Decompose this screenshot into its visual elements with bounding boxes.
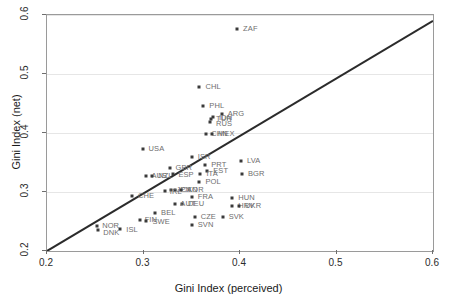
data-point-ita — [199, 172, 202, 175]
data-point-bgr — [240, 173, 243, 176]
point-label-svk: SVK — [229, 213, 244, 221]
data-point-svk — [221, 216, 224, 219]
point-label-nzl: NZL — [158, 172, 172, 180]
data-point-nzl — [151, 175, 154, 178]
data-point-phl — [202, 104, 205, 107]
point-label-ukr: UKR — [245, 202, 261, 210]
point-label-esp: ESP — [178, 171, 193, 179]
data-point-lva — [239, 160, 242, 163]
data-point-zaf — [236, 28, 239, 31]
x-tick-label-0.6: 0.6 — [425, 257, 439, 268]
data-point-cze — [193, 216, 196, 219]
data-point-svn — [190, 224, 193, 227]
point-label-dnk: DNK — [103, 229, 119, 237]
y-axis-label: Gini Index (net) — [10, 72, 22, 192]
gridline-y-0.2 — [47, 251, 433, 252]
point-label-zaf: ZAF — [243, 25, 257, 33]
data-point-prt — [204, 164, 207, 167]
x-tick-label-0.2: 0.2 — [39, 257, 53, 268]
point-label-phl: PHL — [209, 102, 224, 110]
point-label-che: CHE — [138, 192, 154, 200]
data-point-swe — [145, 219, 148, 222]
point-label-bgr: BGR — [248, 170, 265, 178]
y-tick-mark-0.3 — [42, 191, 46, 192]
data-point-ukr — [238, 204, 241, 207]
point-label-pol: POL — [205, 178, 220, 186]
y-tick-mark-0.6 — [42, 14, 46, 15]
point-label-svn: SVN — [198, 221, 214, 229]
point-label-irl: IRL — [170, 188, 182, 196]
data-point-fin — [138, 218, 141, 221]
data-point-usa — [141, 147, 144, 150]
x-tick-mark-0.2 — [46, 250, 47, 254]
y-tick-label-0.2: 0.2 — [19, 238, 30, 262]
data-point-chl — [198, 85, 201, 88]
data-point-che — [130, 194, 133, 197]
plot-area: ZAFCHLPHLARGIDNTURRUSCHNMEXUSAISRLVAPRTG… — [46, 14, 434, 252]
point-label-chl: CHL — [205, 83, 220, 91]
data-point-chn — [205, 133, 208, 136]
data-point-dnk — [97, 228, 100, 231]
x-tick-mark-0.4 — [239, 250, 240, 254]
point-label-usa: USA — [149, 145, 165, 153]
x-tick-label-0.3: 0.3 — [136, 257, 150, 268]
x-tick-mark-0.6 — [432, 250, 433, 254]
point-label-rus: RUS — [216, 120, 232, 128]
data-point-aut — [174, 203, 177, 206]
data-point-aus — [145, 175, 148, 178]
data-point-rus — [209, 120, 212, 123]
x-tick-label-0.5: 0.5 — [329, 257, 343, 268]
y-tick-mark-0.4 — [42, 132, 46, 133]
point-label-swe: SWE — [152, 218, 169, 226]
data-point-isr — [190, 155, 193, 158]
scatter-plot-figure: ZAFCHLPHLARGIDNTURRUSCHNMEXUSAISRLVAPRTG… — [0, 0, 457, 304]
y-tick-mark-0.5 — [42, 73, 46, 74]
x-axis-label: Gini Index (perceived) — [0, 282, 457, 294]
data-point-mex — [211, 133, 214, 136]
data-point-gbr — [168, 166, 171, 169]
data-point-irl — [163, 189, 166, 192]
point-label-lva: LVA — [247, 157, 260, 165]
point-label-isr: ISR — [198, 153, 211, 161]
point-label-bel: BEL — [161, 209, 175, 217]
data-point-hun — [231, 197, 234, 200]
data-point-nor — [96, 224, 99, 227]
point-label-isl: ISL — [126, 226, 138, 234]
y-tick-mark-0.2 — [42, 250, 46, 251]
y-tick-label-0.6: 0.6 — [19, 2, 30, 26]
point-label-mex: MEX — [218, 130, 235, 138]
x-tick-label-0.4: 0.4 — [232, 257, 246, 268]
point-label-aut: AUT — [180, 200, 195, 208]
x-tick-mark-0.3 — [143, 250, 144, 254]
data-point-hrv — [231, 204, 234, 207]
x-tick-mark-0.5 — [336, 250, 337, 254]
data-point-pol — [198, 180, 201, 183]
